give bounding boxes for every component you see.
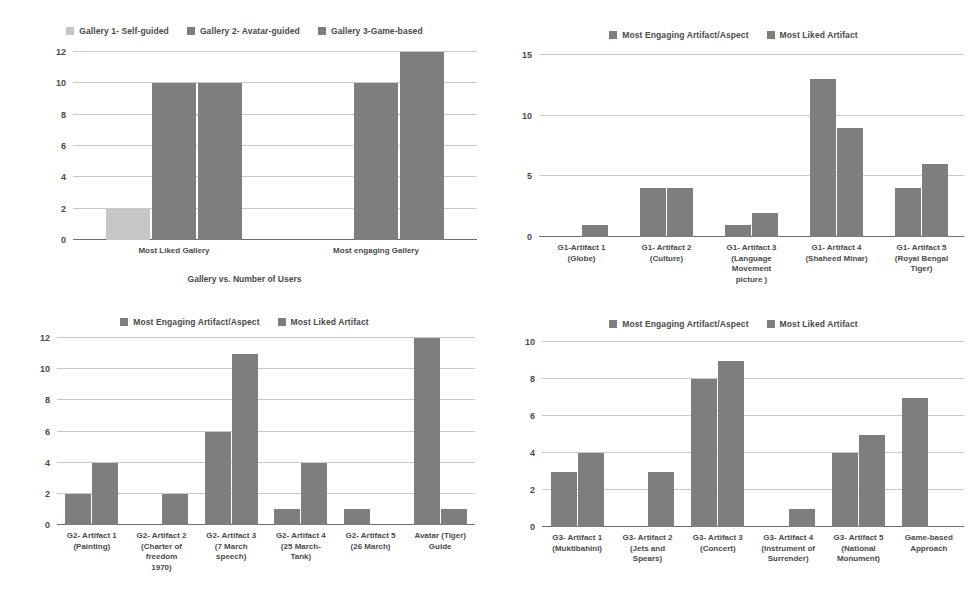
- x-axis-label: G2- Artifact 2(Charter offreedom1970): [127, 531, 197, 573]
- x-axis-label-line: (Royal Bengal: [880, 254, 963, 265]
- bar: [752, 213, 778, 237]
- y-axis-tick-label: 15: [522, 50, 539, 60]
- bar: [691, 379, 717, 527]
- x-axis-label-line: (26 March): [337, 542, 405, 553]
- bar-group: [127, 338, 197, 525]
- bar-group: [73, 52, 275, 240]
- bar: [902, 398, 928, 528]
- x-axis-label-line: G3- Artifact 5: [824, 533, 892, 544]
- bar: [162, 494, 188, 525]
- legend-item: Most Liked Artifact: [767, 319, 858, 329]
- x-axis-label-line: (7 March: [197, 542, 265, 553]
- y-axis-tick-label: 10: [525, 337, 542, 347]
- legend-item: Gallery 2- Avatar-guided: [187, 26, 300, 36]
- x-axis-label: Most Liked Gallery: [73, 246, 275, 257]
- x-axis-label-line: G3- Artifact 3: [684, 533, 752, 544]
- y-axis-tick-label: 2: [530, 485, 542, 495]
- chart-legend: Most Engaging Artifact/AspectMost Liked …: [0, 317, 489, 327]
- x-axis-label: G2- Artifact 3(7 Marchspeech): [196, 531, 266, 573]
- legend-swatch-icon: [187, 27, 195, 35]
- x-axis-label: G3- Artifact 3(Concert): [683, 533, 753, 565]
- chart-panel-gallery2-artifacts: Most Engaging Artifact/AspectMost Liked …: [0, 304, 489, 607]
- y-axis-tick-label: 12: [40, 333, 57, 343]
- y-axis-tick-label: 5: [527, 171, 539, 181]
- bar: [832, 453, 858, 527]
- chart-panel-gallery1-artifacts: Most Engaging Artifact/AspectMost Liked …: [489, 0, 978, 304]
- bar: [400, 52, 444, 240]
- y-axis-tick-label: 0: [527, 232, 539, 242]
- bar: [648, 472, 674, 528]
- bar-group: [624, 55, 709, 237]
- x-axis-labels: G3- Artifact 1(Muktibahini)G3- Artifact …: [542, 533, 964, 565]
- y-axis-tick-label: 6: [61, 141, 73, 151]
- x-axis-label-line: (Instrument of: [754, 544, 822, 555]
- x-axis-label-line: (Concert): [684, 544, 752, 555]
- bar: [274, 509, 300, 525]
- legend-swatch-icon: [767, 320, 775, 328]
- x-axis-label: G2- Artifact 1(Painting): [57, 531, 127, 573]
- bar: [198, 83, 242, 240]
- bar-groups: [73, 52, 477, 240]
- bar-groups: [539, 55, 964, 237]
- legend-swatch-icon: [609, 31, 617, 39]
- legend-item: Most Liked Artifact: [767, 30, 858, 40]
- legend-label: Most Liked Artifact: [291, 317, 369, 327]
- plot-area: 0246810: [542, 342, 964, 527]
- bar: [92, 463, 118, 525]
- x-axis-label-line: Monument): [824, 554, 892, 565]
- x-axis-label: G2- Artifact 4(25 March-Tank): [266, 531, 336, 573]
- legend-item: Most Engaging Artifact/Aspect: [120, 317, 259, 327]
- bar: [667, 188, 693, 237]
- x-axis-label-line: (National: [824, 544, 892, 555]
- bar-group: [539, 55, 624, 237]
- y-axis-tick-label: 4: [61, 172, 73, 182]
- y-axis-tick-label: 2: [61, 204, 73, 214]
- legend-item: Gallery 1- Self-guided: [66, 26, 169, 36]
- bar-group: [275, 52, 477, 240]
- chart-panel-gallery3-artifacts: Most Engaging Artifact/AspectMost Liked …: [489, 304, 978, 607]
- legend-label: Gallery 2- Avatar-guided: [200, 26, 300, 36]
- x-axis-label-line: Most Liked Gallery: [74, 246, 274, 257]
- x-axis-labels: Most Liked GalleryMost engaging Gallery: [73, 246, 477, 257]
- x-axis-label-line: (Jets and: [613, 544, 681, 555]
- x-axis-label-line: (Painting): [58, 542, 126, 553]
- bar: [344, 509, 370, 525]
- x-axis-label: G1- Artifact 5(Royal BengalTiger): [879, 243, 964, 285]
- bar-group: [336, 338, 406, 525]
- y-axis-tick-label: 8: [530, 374, 542, 384]
- x-axis-label-line: Movement: [710, 264, 793, 275]
- bar: [582, 225, 608, 237]
- x-axis-label-line: (25 March-: [267, 542, 335, 553]
- bar-groups: [542, 342, 964, 527]
- y-axis-tick-label: 8: [45, 395, 57, 405]
- chart-legend: Most Engaging Artifact/AspectMost Liked …: [489, 319, 978, 329]
- bar: [725, 225, 751, 237]
- y-axis-tick-label: 12: [56, 47, 73, 57]
- legend-swatch-icon: [66, 27, 74, 35]
- chart-grid: Gallery 1- Self-guidedGallery 2- Avatar-…: [0, 0, 978, 607]
- y-axis-tick-label: 6: [45, 427, 57, 437]
- bar-group: [405, 338, 475, 525]
- plot-area: 024681012: [73, 52, 477, 240]
- legend-label: Gallery 1- Self-guided: [79, 26, 169, 36]
- bar-group: [894, 342, 964, 527]
- x-axis-label-line: (Charter of: [128, 542, 196, 553]
- chart-panel-gallery: Gallery 1- Self-guidedGallery 2- Avatar-…: [0, 0, 489, 304]
- bar: [205, 432, 231, 526]
- legend-label: Gallery 3-Game-based: [331, 26, 423, 36]
- x-axis-label-line: Tiger): [880, 264, 963, 275]
- bar-group: [612, 342, 682, 527]
- x-axis-label-line: G2- Artifact 1: [58, 531, 126, 542]
- y-axis-tick-label: 10: [40, 364, 57, 374]
- bar-group: [57, 338, 127, 525]
- x-axis-label-line: G2- Artifact 5: [337, 531, 405, 542]
- x-axis-label: G1- Artifact 4(Shaheed Minar): [794, 243, 879, 285]
- legend-label: Most Engaging Artifact/Aspect: [133, 317, 259, 327]
- bar: [65, 494, 91, 525]
- x-axis-label-line: (Shaheed Minar): [795, 254, 878, 265]
- x-axis-label-line: picture ): [710, 275, 793, 286]
- x-axis-label: G1- Artifact 3(LanguageMovementpicture ): [709, 243, 794, 285]
- x-axis-label: G3- Artifact 5(NationalMonument): [823, 533, 893, 565]
- bar: [837, 128, 863, 237]
- x-axis-label-line: G1- Artifact 2: [625, 243, 708, 254]
